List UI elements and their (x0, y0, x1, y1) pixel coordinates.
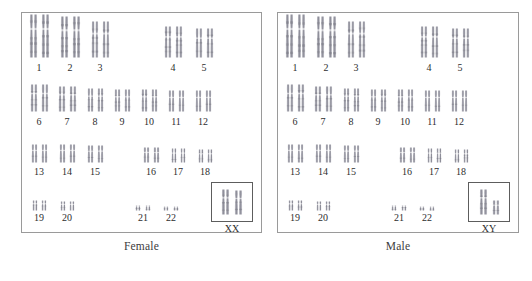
chromosome-number-label-22: 22 (160, 212, 182, 223)
chromosome (325, 86, 333, 112)
chromosome (358, 21, 366, 58)
chromosome-pair-19 (285, 200, 306, 211)
chromosome-pair-12 (192, 90, 215, 112)
chromosome-number-label-10: 10 (138, 116, 161, 127)
chromatid-pair (55, 86, 80, 112)
chromatid-pair (451, 149, 472, 163)
chromatid-pair (340, 145, 363, 163)
chromosome (198, 149, 204, 163)
chromosome-number-label-8: 8 (84, 116, 107, 127)
chromosome-pair-22 (416, 206, 438, 211)
caption-female: Female (21, 240, 262, 252)
chromosome (41, 144, 48, 163)
chromosome-number-label-5: 5 (448, 62, 473, 73)
chromosome (195, 28, 203, 58)
chromatid-pair (111, 89, 134, 112)
chromosome (59, 144, 66, 163)
chromatid-pair (161, 26, 186, 58)
sex-chromosome-label: XY (468, 223, 510, 234)
chromosome-pair-14 (312, 144, 335, 163)
chromosome (463, 149, 469, 163)
chromosome (297, 200, 303, 211)
chromosome (431, 26, 439, 58)
chromatid-pair (285, 200, 306, 211)
chromosome-number-label-7: 7 (311, 116, 336, 127)
chromatid-pair (283, 84, 308, 112)
chromosome-number-label-15: 15 (340, 166, 363, 177)
chromosome-number-label-9: 9 (367, 116, 390, 127)
chromosome-number-label-12: 12 (448, 116, 471, 127)
chromosome-pair-20 (57, 201, 78, 211)
chromosome-pair-18 (451, 149, 472, 163)
chromosome (32, 200, 38, 211)
chromosome-pair-1 (282, 14, 309, 58)
chromatid-pair (27, 84, 52, 112)
chromosome-pair-13 (284, 144, 307, 163)
chromosome (429, 206, 435, 211)
chromatid-pair (211, 182, 253, 222)
chromosome-x (479, 189, 488, 215)
chromosome-pair-8 (84, 88, 107, 112)
chromosome-pair-15 (84, 145, 107, 163)
chromosome-number-label-13: 13 (28, 166, 51, 177)
chromosome (168, 90, 175, 112)
chromosome (91, 21, 99, 58)
chromosome (297, 14, 306, 58)
chromosome-number-label-20: 20 (57, 212, 78, 223)
chromosome (164, 26, 172, 58)
chromosome (297, 144, 304, 163)
sex-chromosome-label: XX (211, 223, 253, 234)
chromosome-pair-15 (340, 145, 363, 163)
chromosome (461, 90, 468, 112)
chromosome (135, 205, 141, 211)
chromosome (285, 14, 294, 58)
chromosome (328, 16, 337, 58)
chromatid-pair (388, 205, 410, 211)
chromosome (325, 201, 331, 211)
chromosome-pair-12 (448, 90, 471, 112)
chromatid-pair (138, 89, 161, 112)
chromosome (315, 144, 322, 163)
chromosome (399, 147, 406, 163)
chromosome (69, 201, 75, 211)
chromosome-pair-7 (55, 86, 80, 112)
chromosome (207, 149, 213, 163)
chromosome (347, 21, 355, 58)
chromosome (145, 205, 151, 211)
chromatid-pair (160, 206, 182, 211)
chromosome (206, 28, 214, 58)
chromosome (171, 148, 177, 163)
chromosome-number-label-11: 11 (165, 116, 188, 127)
chromosome-pair-16 (140, 147, 163, 163)
chromosome-number-label-8: 8 (340, 116, 363, 127)
chromosome-pair-20 (313, 201, 334, 211)
chromosome-number-label-11: 11 (421, 116, 444, 127)
chromosome-pair-10 (138, 89, 161, 112)
chromosome (409, 147, 416, 163)
chromosome-number-label-21: 21 (132, 212, 154, 223)
chromatid-pair (195, 149, 216, 163)
chromosome-number-label-12: 12 (192, 116, 215, 127)
chromosome-pair-21 (132, 205, 154, 211)
chromatid-pair (56, 144, 79, 163)
chromosome-number-label-2: 2 (57, 62, 84, 73)
chromatid-pair (84, 145, 107, 163)
chromosome-number-label-2: 2 (313, 62, 340, 73)
chromosome (316, 201, 322, 211)
chromosome (288, 200, 294, 211)
chromosome-number-label-3: 3 (88, 62, 113, 73)
chromosome (31, 144, 38, 163)
chromosome-pair-1 (26, 14, 53, 58)
chromatid-pair (282, 14, 309, 58)
chromosome (69, 86, 77, 112)
chromosome (287, 144, 294, 163)
chromatid-pair (416, 206, 438, 211)
chromatid-pair (394, 89, 417, 112)
chromatid-pair (340, 88, 363, 112)
chromosome (180, 148, 186, 163)
chromosome-x (221, 189, 230, 215)
chromatid-pair (28, 144, 51, 163)
chromosome-pair-16 (396, 147, 419, 163)
chromatid-pair (313, 16, 340, 58)
chromosome (454, 149, 460, 163)
